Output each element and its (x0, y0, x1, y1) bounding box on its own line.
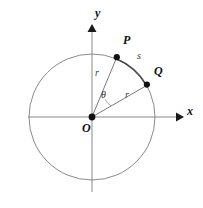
angle-label-theta: θ (101, 90, 106, 100)
point-dot-q (144, 82, 150, 88)
y-axis-arrowhead (88, 24, 97, 32)
point-label-q: Q (154, 65, 163, 77)
point-dot-p (114, 54, 120, 60)
figure-container: y x P Q O r r s θ (0, 0, 203, 208)
y-axis-label: y (95, 7, 100, 19)
point-label-p: P (123, 34, 130, 46)
arc-length-label-s: s (137, 51, 141, 61)
point-label-origin: O (82, 122, 91, 134)
radius-label-oq: r (125, 90, 129, 100)
x-axis-arrowhead (176, 113, 184, 122)
angle-arc-theta (105, 99, 111, 106)
point-dot-origin (89, 114, 96, 121)
x-axis-label: x (187, 105, 193, 117)
diagram-canvas (0, 0, 203, 208)
radius-label-op: r (95, 68, 99, 78)
arc-segment-pq (116, 59, 147, 86)
